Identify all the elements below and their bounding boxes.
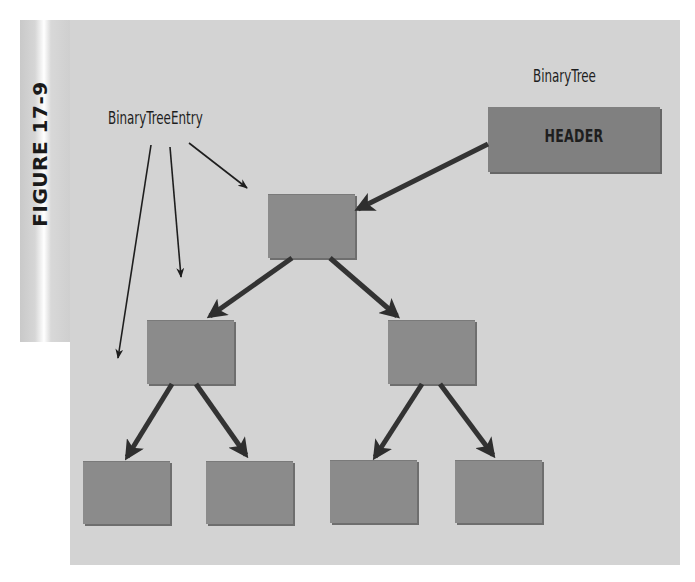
entry-annotation-arrow-leaf: [118, 145, 151, 358]
left-left-arrow: [127, 384, 172, 457]
arrows-layer: [0, 0, 695, 582]
left-right-arrow: [196, 384, 246, 455]
header-pointer-arrow: [358, 144, 488, 209]
root-right-arrow: [330, 258, 397, 316]
entry-annotation-arrow-root: [189, 143, 247, 188]
right-right-arrow: [440, 384, 493, 455]
entry-annotation-arrow-mid: [170, 147, 181, 277]
root-left-arrow: [210, 258, 292, 316]
right-left-arrow: [375, 384, 422, 457]
